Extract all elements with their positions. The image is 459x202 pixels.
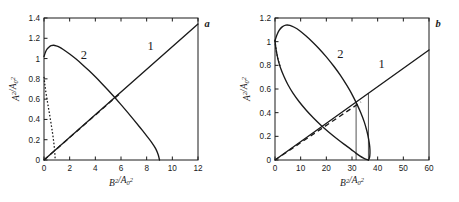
curve-1 — [44, 24, 198, 160]
y-axis-tick-label: 0.6 — [29, 95, 41, 104]
curve-2-lower-tail-dotted — [275, 40, 280, 65]
x-axis-tick-label: 10 — [296, 164, 306, 173]
plot-frame — [275, 18, 429, 160]
plot-frame — [44, 18, 198, 160]
y-axis-tick-label: 0.8 — [29, 75, 41, 84]
curve-2-upper — [44, 45, 160, 160]
x-axis-tick-label: 10 — [168, 164, 178, 173]
x-axis-tick-label: 2 — [67, 164, 72, 173]
chart-panel-b: 010203040506000.20.40.60.811.2B2/A02A2/A… — [229, 0, 458, 202]
x-axis-tick-label: 4 — [93, 164, 98, 173]
curve-number-label-1: 1 — [147, 39, 153, 53]
chart-panel-a: 02468101200.20.40.60.811.21.4B2/A02A2/A0… — [0, 0, 229, 202]
curve-number-label-2: 2 — [81, 48, 87, 62]
x-axis-title: B2/A02 — [109, 175, 134, 188]
y-axis-tick-label: 0 — [266, 156, 271, 165]
y-axis-tick-label: 0.2 — [260, 132, 272, 141]
figure-container: 02468101200.20.40.60.811.21.4B2/A02A2/A0… — [0, 0, 459, 202]
x-axis-tick-label: 40 — [373, 164, 383, 173]
x-axis-tick-label: 8 — [144, 164, 149, 173]
curve-number-label-2: 2 — [337, 47, 343, 61]
y-axis-tick-label: 1.2 — [29, 34, 41, 43]
y-axis-tick-label: 1.2 — [260, 14, 272, 23]
y-axis-tick-label: 0 — [35, 156, 40, 165]
y-axis-tick-label: 0.8 — [260, 61, 272, 70]
y-axis-title: A2/A02 — [8, 76, 21, 102]
curve-number-label-1: 1 — [378, 57, 384, 71]
x-axis-tick-label: 12 — [193, 164, 203, 173]
curve-2-upper — [275, 25, 370, 160]
y-axis-title: A2/A02 — [239, 76, 252, 102]
y-axis-tick-label: 1 — [35, 55, 40, 64]
x-axis-title: B2/A02 — [340, 175, 365, 188]
x-axis-tick-label: 60 — [424, 164, 434, 173]
panel-b-svg: 010203040506000.20.40.60.811.2B2/A02A2/A… — [229, 0, 459, 202]
x-axis-tick-label: 0 — [273, 164, 278, 173]
x-axis-tick-label: 30 — [347, 164, 357, 173]
x-axis-tick-label: 20 — [322, 164, 332, 173]
y-axis-tick-label: 0.4 — [260, 109, 272, 118]
x-axis-tick-label: 6 — [119, 164, 124, 173]
panel-a-svg: 02468101200.20.40.60.811.21.4B2/A02A2/A0… — [0, 0, 229, 202]
y-axis-tick-label: 1.4 — [29, 14, 41, 23]
curve-1 — [275, 50, 429, 160]
y-axis-tick-label: 0.2 — [29, 136, 41, 145]
y-axis-tick-label: 0.4 — [29, 115, 41, 124]
x-axis-tick-label: 0 — [42, 164, 47, 173]
panel-letter-b: b — [435, 18, 440, 29]
panel-letter-a: a — [204, 18, 209, 29]
y-axis-tick-label: 0.6 — [260, 85, 272, 94]
y-axis-tick-label: 1 — [266, 38, 271, 47]
x-axis-tick-label: 50 — [399, 164, 409, 173]
curve-2-lower — [44, 77, 55, 160]
